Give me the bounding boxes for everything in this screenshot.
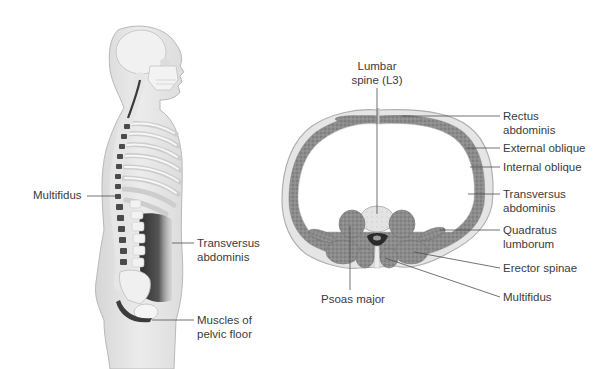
label-multifidus-section: Multifidus bbox=[503, 291, 552, 305]
label-line: Muscles of bbox=[197, 314, 252, 328]
lateral-body-illustration bbox=[0, 0, 609, 369]
rectus-abdominis bbox=[335, 116, 375, 123]
cross-section bbox=[282, 108, 493, 268]
label-line: pelvic floor bbox=[197, 328, 252, 342]
anatomy-figure: Multifidus Transversus abdominis Muscles… bbox=[0, 0, 609, 369]
label-transversus-abdominis-lateral: Transversus abdominis bbox=[197, 237, 260, 264]
label-line: abdominis bbox=[503, 124, 555, 138]
label-rectus-abdominis: Rectus abdominis bbox=[503, 110, 555, 137]
label-multifidus-lateral: Multifidus bbox=[33, 189, 82, 203]
label-line: Quadratus bbox=[503, 224, 557, 238]
label-lumbar-spine: Lumbar spine (L3) bbox=[345, 60, 409, 87]
label-line: lumborum bbox=[503, 238, 557, 252]
label-line: spine (L3) bbox=[345, 74, 409, 88]
label-line: Transversus bbox=[503, 188, 566, 202]
psoas-major-left bbox=[339, 210, 365, 238]
label-line: abdominis bbox=[197, 251, 260, 265]
label-external-oblique: External oblique bbox=[503, 142, 585, 156]
erector-spinae-left bbox=[326, 240, 360, 264]
psoas-major-right bbox=[389, 210, 415, 238]
label-erector-spinae: Erector spinae bbox=[503, 262, 577, 276]
label-line: Rectus bbox=[503, 110, 555, 124]
multifidus-left bbox=[356, 248, 374, 268]
label-psoas-major: Psoas major bbox=[321, 293, 385, 307]
multifidus-right bbox=[380, 248, 398, 268]
label-line: abdominis bbox=[503, 202, 566, 216]
label-line: Transversus bbox=[197, 237, 260, 251]
label-quadratus-lumborum: Quadratus lumborum bbox=[503, 224, 557, 251]
label-line: Lumbar bbox=[345, 60, 409, 74]
erector-spinae-right bbox=[394, 240, 428, 264]
label-internal-oblique: Internal oblique bbox=[503, 161, 582, 175]
label-pelvic-floor: Muscles of pelvic floor bbox=[197, 314, 252, 341]
label-transversus-abdominis-section: Transversus abdominis bbox=[503, 188, 566, 215]
